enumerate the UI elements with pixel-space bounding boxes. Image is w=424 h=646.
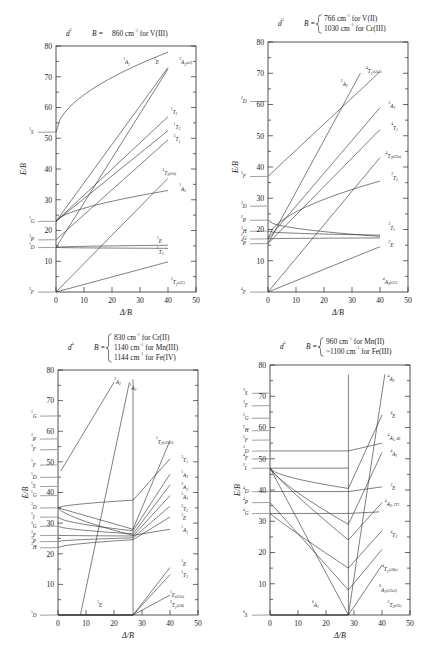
y-tick-label: 40	[46, 488, 54, 497]
y-tick-label: 30	[46, 519, 54, 528]
state-label: 4A2	[388, 374, 395, 383]
state-label: 4T1(t24e)	[382, 564, 398, 573]
y-tick-label: 10	[46, 580, 54, 589]
y-tick-label: 60	[46, 427, 54, 436]
panel-d3: d3B =766 cm−1 for V(II)1030 cm−1 for Cr(…	[212, 0, 424, 323]
x-tick-label: 20	[108, 296, 116, 305]
state-label: 1T1	[171, 107, 178, 116]
plot-frame	[268, 42, 408, 292]
figure-sheet: d2B =860 cm−1 for V(III)1020304050607080…	[0, 0, 424, 646]
x-tick-label: 20	[320, 296, 328, 305]
free-ion-term: 1G	[29, 216, 35, 224]
y-tick-label: 10	[258, 580, 266, 589]
x-tick-label: 30	[136, 296, 144, 305]
x-tick-label: 30	[350, 619, 358, 628]
free-ion-term: 1G	[31, 410, 37, 418]
config-label: d2	[66, 28, 72, 38]
state-label: 6A1(t23e2)	[379, 584, 397, 593]
state-label: 4T1	[391, 122, 398, 131]
x-tick-label: 50	[404, 296, 412, 305]
y-tick-label: 80	[46, 366, 54, 375]
racah-b-value: 860 cm−1 for V(III)	[112, 29, 168, 38]
state-label: 4A1, 4E	[388, 433, 402, 442]
state-label: 3T2	[181, 504, 188, 513]
free-ion-term: 1G	[31, 490, 37, 498]
state-label: 4T2	[390, 530, 397, 539]
state-label: 3A1	[181, 492, 188, 501]
energy-curve	[270, 503, 382, 591]
y-tick-label: 80	[44, 42, 52, 51]
x-tick-label: 40	[378, 619, 386, 628]
y-tick-label: 20	[256, 225, 264, 234]
state-label: 1E	[157, 236, 163, 244]
state-label: 6A1	[312, 600, 319, 609]
free-ion-term: 4G	[243, 508, 249, 516]
racah-b-value: 830 cm−1 for Cr(II)	[114, 333, 170, 342]
y-axis-label: E/B	[19, 163, 28, 176]
energy-curve	[270, 443, 382, 451]
x-tick-label: 30	[138, 619, 146, 628]
y-tick-label: 70	[46, 396, 54, 405]
state-label: 1T2	[181, 570, 188, 579]
energy-curve	[56, 247, 168, 248]
y-axis-label: E/B	[21, 486, 30, 499]
x-tick-label: 50	[406, 619, 414, 628]
state-label: 1E	[154, 57, 160, 65]
state-label: 2E	[390, 483, 396, 491]
state-label: 4A2, 2T1	[385, 499, 400, 508]
free-ion-term: 3G	[31, 521, 37, 529]
x-tick-label: 20	[322, 619, 330, 628]
energy-curve	[268, 181, 380, 239]
y-tick-label: 10	[256, 257, 264, 266]
state-label: 1A1	[181, 525, 188, 534]
x-tick-label: 20	[110, 619, 118, 628]
y-tick-label: 30	[256, 194, 264, 203]
plot-frame	[56, 46, 196, 292]
state-label: 3T2(t2e)	[162, 168, 176, 177]
y-tick-label: 50	[44, 134, 52, 143]
y-tick-label: 20	[258, 548, 266, 557]
energy-curve	[58, 485, 170, 534]
state-label: 3A2	[114, 377, 121, 386]
state-label: 3T1	[174, 134, 181, 143]
state-label: 2A1	[388, 101, 395, 110]
state-label: 1A2	[129, 383, 136, 392]
free-ion-term: 2D	[241, 201, 247, 209]
state-label: 5T2(t23e2)	[156, 436, 174, 445]
panel-d4: d4B =830 cm−1 for Cr(II)1140 cm−1 for Mn…	[0, 323, 212, 646]
free-ion-term: 2H	[243, 425, 250, 433]
state-label: 1T2	[157, 246, 164, 255]
energy-curve	[268, 73, 360, 243]
free-ion-term: 2S	[243, 388, 248, 396]
brace	[318, 338, 324, 357]
energy-curve	[80, 382, 129, 615]
state-label: 2A2	[341, 79, 348, 88]
y-tick-label: 80	[256, 38, 264, 47]
x-tick-label: 40	[376, 296, 384, 305]
state-label: 3T1(t24)	[170, 600, 185, 609]
x-axis-label: Δ/B	[119, 308, 132, 317]
energy-curve	[56, 245, 168, 247]
energy-curve	[133, 595, 170, 615]
state-label: 5E(t23e)	[170, 590, 185, 599]
free-ion-term: 3F	[31, 444, 37, 452]
energy-curve	[56, 69, 168, 247]
y-axis-label: E/B	[233, 484, 242, 497]
racah-b-value: 766 cm−1 for V(II)	[324, 14, 378, 23]
energy-curve	[268, 108, 380, 239]
x-tick-label: 10	[82, 619, 90, 628]
energy-curve	[56, 140, 168, 240]
energy-curve	[268, 238, 380, 239]
energy-curve	[270, 487, 382, 492]
y-tick-label: 20	[46, 550, 54, 559]
state-label: 1A1	[179, 183, 186, 192]
energy-curve	[58, 440, 170, 529]
free-ion-term: 4P	[243, 497, 249, 505]
state-label: 4A2(t23)	[383, 277, 398, 286]
x-tick-label: 0	[266, 296, 270, 305]
y-tick-label: 30	[258, 517, 266, 526]
racah-b-label: B =	[306, 342, 317, 351]
free-ion-term: 1I	[31, 512, 35, 520]
racah-b-value: 1030 cm−1 for Cr(III)	[324, 23, 386, 32]
y-tick-label: 40	[256, 163, 264, 172]
